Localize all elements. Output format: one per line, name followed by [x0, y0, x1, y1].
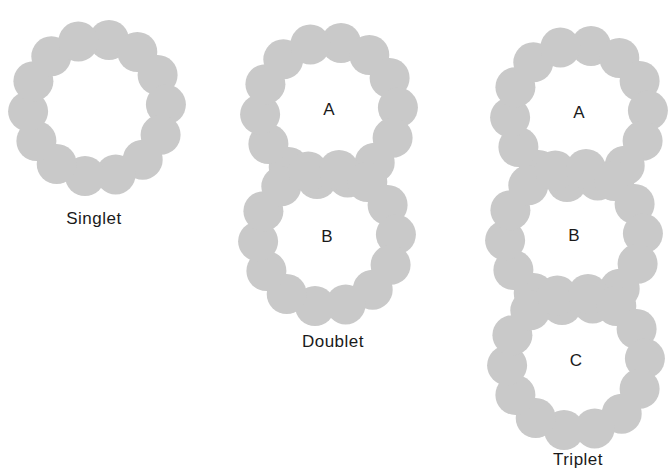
protofilament-bead: [290, 25, 330, 65]
ring-label-b: B: [321, 227, 332, 246]
protofilament-bead: [326, 284, 366, 324]
ring-label-b: B: [568, 226, 579, 245]
doublet-structure: [238, 23, 418, 326]
singlet-structure: [8, 20, 186, 196]
protofilament-bead: [58, 22, 98, 62]
ring-label-a: A: [323, 100, 335, 119]
protofilament-bead: [575, 408, 615, 448]
microtubule-diagram: SingletABDoubletABCTriplet: [0, 0, 670, 471]
triplet-caption: Triplet: [553, 450, 603, 469]
ring-label-a: A: [573, 103, 585, 122]
protofilament-bead: [540, 28, 580, 68]
ring-single: [8, 20, 186, 196]
ring-label-c: C: [570, 351, 582, 370]
doublet-caption: Doublet: [302, 332, 364, 351]
singlet-caption: Singlet: [66, 209, 121, 228]
